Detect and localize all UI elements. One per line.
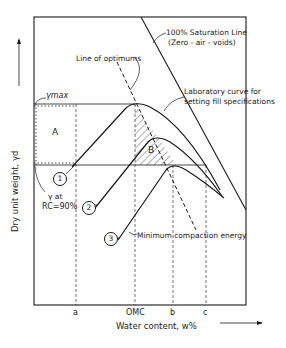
- leader-rc90: [35, 166, 45, 192]
- region-a-label: A: [52, 128, 58, 137]
- x-arrowhead-icon: [257, 321, 263, 325]
- leader-lab-curve: [164, 97, 184, 111]
- x-tick-omc: OMC: [126, 309, 145, 317]
- gamma-max-label: γmax: [46, 92, 68, 100]
- region-b-label: B: [148, 146, 154, 155]
- min-energy-label: Minimum compaction energy: [137, 232, 247, 240]
- leader-gamma-max: [35, 98, 46, 104]
- x-tick-a: a: [73, 309, 78, 317]
- curve-2-marker: 2: [82, 201, 96, 215]
- lab-curve-label-2: setting fill specifications: [184, 98, 275, 106]
- y-arrowhead-icon: [17, 38, 21, 44]
- x-tick-b: b: [170, 309, 175, 317]
- curve-3-marker: 3: [104, 232, 118, 246]
- y-axis-label: Dry unit weight, γd: [10, 151, 20, 232]
- compaction-diagram: 100% Saturation Line (Zero - air - voids…: [0, 0, 286, 348]
- plot-svg: [0, 0, 286, 348]
- saturation-line-label: 100% Saturation Line: [166, 29, 247, 37]
- x-axis-label: Water content, w%: [116, 322, 197, 331]
- rc90-label: RC=90%: [42, 203, 77, 211]
- line-of-optimums-label: Line of optimums: [76, 55, 141, 63]
- leader-min-energy: [129, 232, 137, 235]
- gamma-at-label: γ at: [48, 193, 62, 201]
- saturation-line-sublabel: (Zero - air - voids): [168, 39, 236, 47]
- leader-curve-1: [66, 164, 76, 174]
- lab-curve-label-1: Laboratory curve for: [184, 88, 261, 96]
- x-tick-c: c: [203, 309, 207, 317]
- region-b-hatch: [135, 104, 176, 165]
- curve-1-marker: 1: [53, 172, 67, 186]
